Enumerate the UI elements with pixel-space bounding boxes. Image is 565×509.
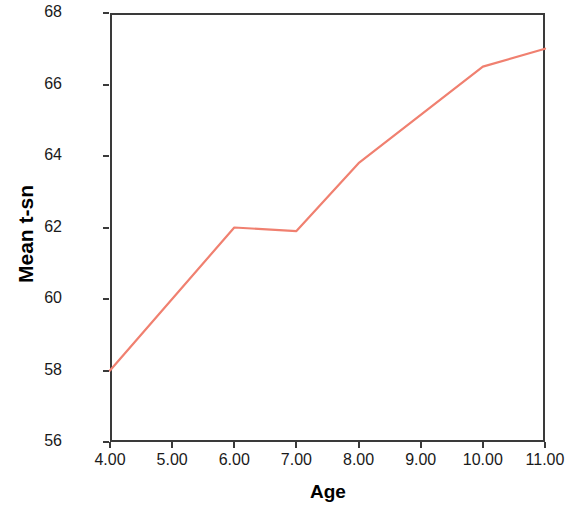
x-tick-label: 5.00 bbox=[137, 452, 207, 468]
y-tick-label: 68 bbox=[2, 4, 62, 20]
x-tick-label: 11.00 bbox=[510, 452, 565, 468]
x-tick-label: 9.00 bbox=[386, 452, 456, 468]
x-tick-mark bbox=[420, 442, 422, 448]
x-tick-mark bbox=[171, 442, 173, 448]
y-tick-label: 60 bbox=[2, 290, 62, 306]
x-tick-mark bbox=[109, 442, 111, 448]
y-tick-label: 66 bbox=[2, 76, 62, 92]
x-tick-mark bbox=[233, 442, 235, 448]
y-tick-mark bbox=[103, 298, 109, 300]
y-tick-mark bbox=[103, 84, 109, 86]
y-tick-mark bbox=[103, 370, 109, 372]
y-tick-label: 62 bbox=[2, 219, 62, 235]
y-tick-label: 64 bbox=[2, 147, 62, 163]
x-tick-label: 8.00 bbox=[324, 452, 394, 468]
x-tick-label: 6.00 bbox=[199, 452, 269, 468]
y-tick-label: 58 bbox=[2, 362, 62, 378]
y-tick-mark bbox=[103, 12, 109, 14]
x-tick-mark bbox=[482, 442, 484, 448]
x-tick-mark bbox=[295, 442, 297, 448]
x-tick-mark bbox=[358, 442, 360, 448]
plot-area bbox=[110, 13, 545, 442]
x-axis-title: Age bbox=[110, 481, 546, 503]
x-tick-label: 7.00 bbox=[261, 452, 331, 468]
x-tick-mark bbox=[544, 442, 546, 448]
y-tick-mark bbox=[103, 227, 109, 229]
y-tick-mark bbox=[103, 155, 109, 157]
y-tick-label: 56 bbox=[2, 433, 62, 449]
x-tick-label: 4.00 bbox=[75, 452, 145, 468]
x-tick-label: 10.00 bbox=[448, 452, 518, 468]
line-chart: Mean t-sn 56586062646668 4.005.006.007.0… bbox=[0, 0, 565, 509]
